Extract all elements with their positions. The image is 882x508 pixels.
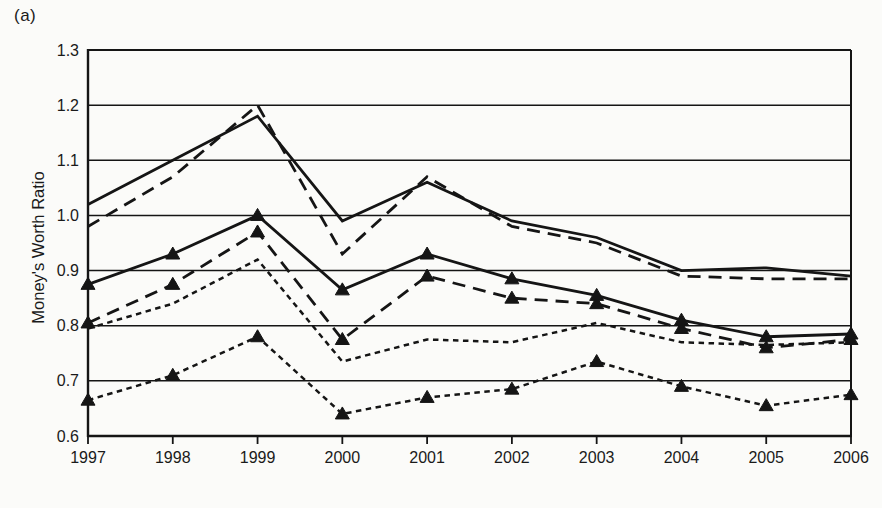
x-tick-label: 2004: [664, 449, 700, 466]
x-tick-label: 1997: [70, 449, 106, 466]
triangle-marker: [251, 225, 265, 237]
y-tick-label: 0.6: [57, 428, 79, 445]
series-line-long-dash: [88, 105, 851, 279]
x-tick-label: 2003: [579, 449, 615, 466]
triangle-marker: [251, 208, 265, 220]
x-tick-label: 2006: [833, 449, 869, 466]
triangle-marker: [251, 330, 265, 342]
triangle-marker: [759, 399, 773, 411]
x-tick-label: 2001: [409, 449, 445, 466]
y-tick-label: 0.8: [57, 317, 79, 334]
x-tick-label: 2002: [494, 449, 530, 466]
y-tick-label: 1.1: [57, 152, 79, 169]
triangle-marker: [166, 277, 180, 289]
y-tick-label: 1.0: [57, 207, 79, 224]
x-tick-label: 1998: [155, 449, 191, 466]
triangle-marker: [420, 247, 434, 259]
y-tick-label: 1.3: [57, 42, 79, 59]
y-axis-title: Money's Worth Ratio: [29, 148, 48, 348]
series-line-short-dash-triangle: [88, 337, 851, 414]
y-tick-label: 0.7: [57, 372, 79, 389]
triangle-marker: [844, 388, 858, 400]
triangle-marker: [420, 390, 434, 402]
chart-figure: (a) Money's Worth Ratio 1997199819992000…: [0, 0, 882, 508]
series-line-solid: [88, 116, 851, 276]
y-tick-label: 0.9: [57, 262, 79, 279]
triangle-marker: [590, 355, 604, 367]
y-tick-label: 1.2: [57, 97, 79, 114]
panel-label: (a): [14, 6, 36, 26]
x-tick-label: 2000: [325, 449, 361, 466]
series-line-solid-triangle: [88, 215, 851, 336]
series-line-short-dash: [88, 260, 851, 362]
x-tick-label: 1999: [240, 449, 276, 466]
line-chart-canvas: 1997199819992000200120022003200420052006…: [0, 0, 882, 508]
x-tick-label: 2005: [748, 449, 784, 466]
